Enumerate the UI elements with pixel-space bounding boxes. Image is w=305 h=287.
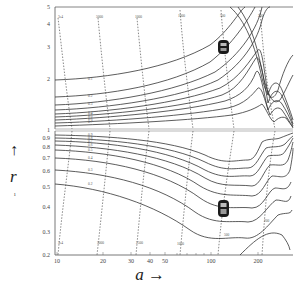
y-tick: 0.4 <box>43 204 51 210</box>
x-tick: 100 <box>207 258 216 264</box>
dashed-label: 500 <box>224 233 230 237</box>
contour-label: 0.6 <box>88 143 93 147</box>
upper-y-ticks: 5 4 3 2 1 <box>47 4 50 133</box>
y-tick: 5 <box>47 4 50 10</box>
y-tick: 1 <box>47 127 50 133</box>
lower-contour-labels: 0.9 0.8 0.7 0.6 0.5 0.4 0.3 0.2 <box>88 133 93 186</box>
x-tick: 30 <box>128 258 134 264</box>
contour-chart: 5 4 3 2 1 0.9 0.8 0.7 0.6 0.5 0.4 0.3 0.… <box>0 0 305 287</box>
upper-contour-labels: 0.1 0.2 0.3 0.4 0.5 0.6 0.7 <box>88 77 93 124</box>
y-axis-sub: ı <box>14 191 16 197</box>
x-tick: 200 <box>254 258 263 264</box>
dashed-label: 3e4 <box>58 15 63 19</box>
contour-label: 0.3 <box>88 102 93 106</box>
contour-label: 0.1 <box>88 77 93 81</box>
contour-label: 0.7 <box>88 120 93 124</box>
y-tick: 4 <box>47 21 50 27</box>
contour-label: 0.3 <box>88 168 93 172</box>
x-tick: 20 <box>100 258 106 264</box>
contour-label: 0.2 <box>88 182 93 186</box>
upper-contours <box>55 7 293 128</box>
contour-label: 0.2 <box>88 94 93 98</box>
y-tick: 3 <box>47 44 50 50</box>
dashed-label: 200 <box>264 219 270 223</box>
dashed-label: 500 <box>220 14 226 18</box>
x-axis-label: a → <box>135 265 165 284</box>
y-axis-arrow: ↑ <box>10 141 18 158</box>
lower-dashed-labels: 3e4 5000 2500 1000 500 200 <box>58 219 270 246</box>
lower-y-ticks: 0.9 0.8 0.7 0.6 0.5 0.4 0.3 0.2 <box>43 135 51 258</box>
y-axis-label: r <box>10 167 17 186</box>
lower-marker-icon <box>218 200 229 217</box>
x-tick: 50 <box>162 258 168 264</box>
contour-label: 0.4 <box>88 156 93 160</box>
dashed-label: 1000 <box>135 15 142 19</box>
dashed-label: 2500 <box>136 241 143 245</box>
y-tick: 0.3 <box>43 229 51 235</box>
x-tick: 10 <box>54 258 60 264</box>
upper-dashed-labels: 3e4 5000 1000 1000 500 200 <box>58 14 264 19</box>
y-tick: 0.6 <box>43 168 51 174</box>
dashed-label: 1000 <box>177 242 184 246</box>
x-minor-ticks <box>57 252 258 255</box>
y-tick: 0.8 <box>43 144 51 150</box>
y-tick: 0.7 <box>43 155 51 161</box>
y-tick: 2 <box>47 76 50 82</box>
y-tick: 0.9 <box>43 135 51 141</box>
x-ticks: 10 20 30 40 50 100 200 <box>54 258 263 264</box>
y-tick: 0.5 <box>43 184 51 190</box>
dashed-label: 5000 <box>97 241 104 245</box>
y-tick: 0.2 <box>43 252 51 258</box>
dashed-label: 5000 <box>96 15 103 19</box>
upper-marker-icon <box>218 40 229 54</box>
dashed-label: 1000 <box>178 14 185 18</box>
x-tick: 40 <box>147 258 153 264</box>
contour-label: 0.5 <box>88 148 93 152</box>
dashed-label: 3e4 <box>58 241 63 245</box>
